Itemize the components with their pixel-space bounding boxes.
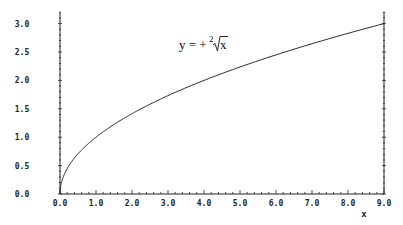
y-tick-label: 1.0: [15, 133, 30, 142]
x-tick-label: 5.0: [233, 199, 248, 208]
y-tick-labels: 0.00.51.01.52.02.53.0: [15, 20, 30, 199]
x-tick-label: 1.0: [89, 199, 104, 208]
y-tick-label: 0.0: [15, 190, 30, 199]
formula-prefix: y = +: [179, 37, 207, 52]
x-tick-labels: 0.01.02.03.04.05.06.07.08.09.0: [53, 199, 392, 208]
x-tick-label: 9.0: [377, 199, 392, 208]
x-tick-label: 8.0: [341, 199, 356, 208]
x-tick-label: 0.0: [53, 199, 68, 208]
formula-radicand: x: [220, 37, 227, 52]
formula-root-index: 2: [209, 34, 214, 44]
y-tick-label: 2.0: [15, 76, 30, 85]
y-tick-label: 2.5: [15, 48, 30, 57]
y-tick-label: 3.0: [15, 20, 30, 29]
x-tick-label: 7.0: [305, 199, 320, 208]
x-tick-label: 3.0: [161, 199, 176, 208]
y-tick-label: 0.5: [15, 162, 30, 171]
x-tick-label: 2.0: [125, 199, 140, 208]
x-tick-label: 6.0: [269, 199, 284, 208]
x-tick-label: 4.0: [197, 199, 212, 208]
sqrt-function-chart: 0.01.02.03.04.05.06.07.08.09.0 0.00.51.0…: [0, 0, 403, 225]
x-axis-title: x: [361, 209, 367, 219]
y-tick-label: 1.5: [15, 105, 30, 114]
formula-annotation: y = + 2 x: [179, 34, 228, 52]
